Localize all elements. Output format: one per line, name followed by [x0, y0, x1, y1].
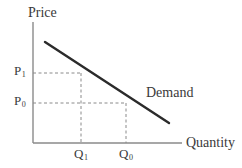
quantity-tick-q1: Q1	[74, 147, 87, 160]
price-tick-p1-subscript: 1	[22, 70, 26, 79]
price-tick-p0-base: P	[14, 93, 21, 108]
price-tick-p0: P0	[14, 94, 25, 107]
quantity-tick-q1-base: Q	[74, 146, 83, 161]
quantity-tick-q0-subscript: 0	[129, 153, 133, 162]
demand-curve-label: Demand	[146, 86, 193, 100]
y-axis-label: Price	[28, 6, 57, 20]
quantity-tick-q0: Q0	[119, 147, 132, 160]
demand-curve	[45, 42, 169, 123]
x-axis-label: Quantity	[186, 136, 235, 150]
quantity-tick-q0-base: Q	[119, 146, 128, 161]
price-tick-p1: P1	[14, 64, 25, 77]
quantity-tick-q1-subscript: 1	[84, 153, 88, 162]
demand-curve-diagram: Price Quantity Demand P1 P0 Q1 Q0	[0, 0, 242, 168]
price-tick-p1-base: P	[14, 63, 21, 78]
price-tick-p0-subscript: 0	[22, 100, 26, 109]
